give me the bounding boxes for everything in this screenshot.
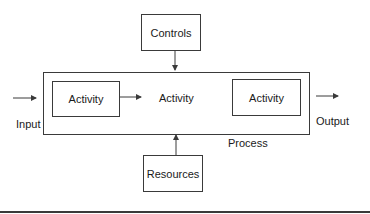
activity-label-1: Activity [69, 93, 104, 105]
controls-label: Controls [151, 27, 192, 39]
resources-box: Resources [143, 155, 203, 192]
process-label: Process [228, 137, 268, 149]
activity-box-3: Activity [232, 79, 301, 116]
controls-box: Controls [141, 14, 201, 51]
output-label: Output [316, 115, 349, 127]
resources-label: Resources [147, 168, 200, 180]
activity-box-1: Activity [52, 81, 120, 117]
activity-label-3: Activity [249, 92, 284, 104]
input-label: Input [16, 118, 40, 130]
activity-label-2: Activity [159, 92, 194, 104]
bottom-rule [0, 211, 370, 213]
